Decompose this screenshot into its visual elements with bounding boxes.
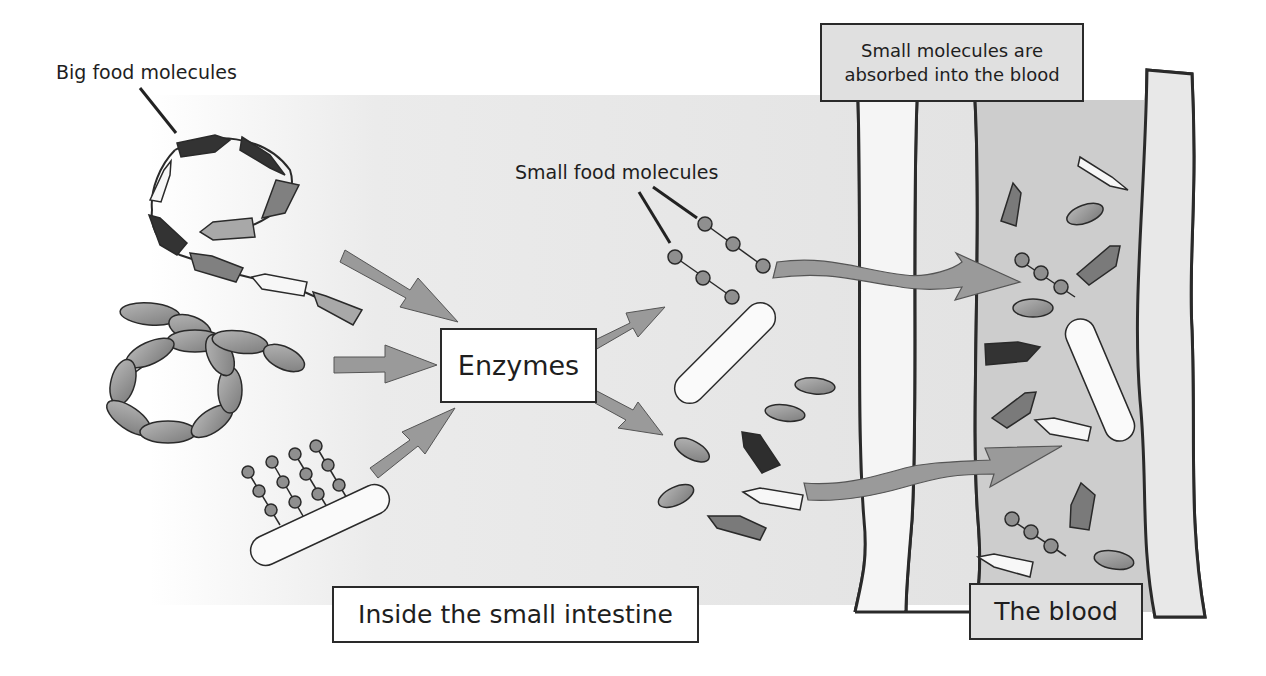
the-blood-text: The blood [994,597,1118,626]
big-food-molecules-label: Big food molecules [56,62,237,84]
diagram-artwork [0,0,1266,676]
absorbed-text-line2: absorbed into the blood [844,63,1059,86]
digestion-diagram: Big food molecules Small food molecules … [0,0,1266,676]
inside-small-intestine-text: Inside the small intestine [358,600,673,629]
the-blood-label: The blood [970,584,1142,639]
inside-small-intestine-label: Inside the small intestine [333,587,698,642]
absorbed-callout: Small molecules are absorbed into the bl… [821,24,1083,101]
small-food-molecules-label: Small food molecules [515,162,718,184]
absorbed-text-line1: Small molecules are [861,39,1043,62]
enzymes-label: Enzymes [441,329,596,402]
enzymes-text: Enzymes [458,350,579,381]
